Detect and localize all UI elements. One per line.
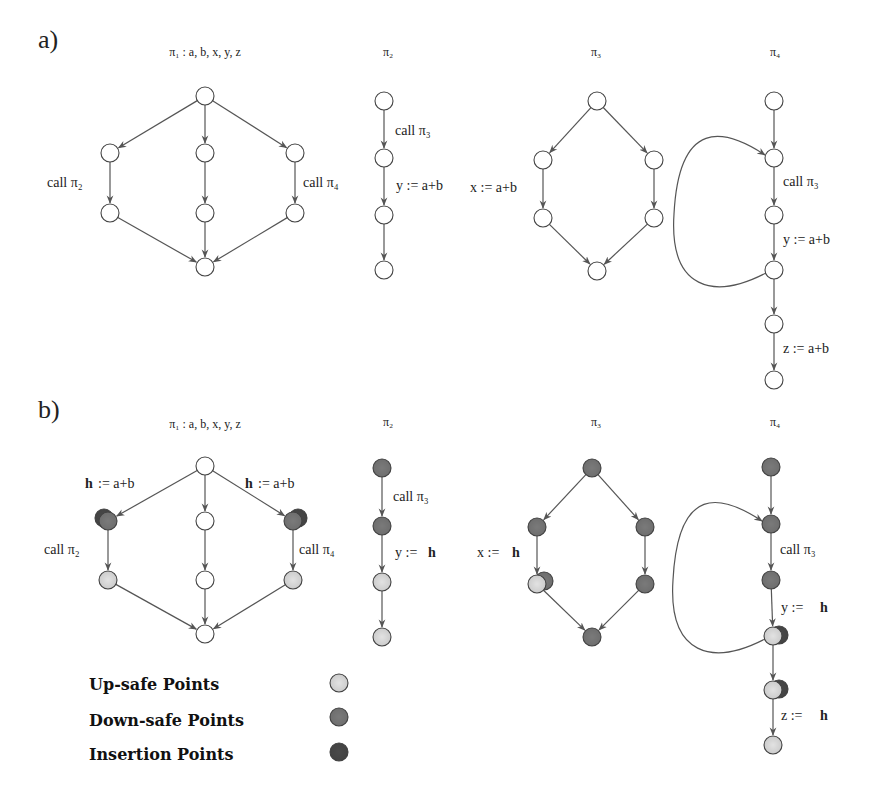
node-plain [765,315,783,333]
node-plain [645,209,663,227]
loop-back-edge [674,136,766,286]
node-plain [196,571,214,589]
node-upsafe-shade [528,575,546,593]
flow-edge [771,589,772,626]
node-plain [375,92,393,110]
node-plain [196,512,214,530]
node-plain [588,92,606,110]
procedure-title: π₄ [770,45,780,59]
legend-item-downsafe: Down-safe Points [89,708,348,730]
node-downsafe-shade [583,628,601,646]
legend-item-insertion: Insertion Points [89,743,348,764]
edge-label: call π₃ [395,123,431,138]
panel-label: b) [38,395,60,424]
flow-edge [213,101,287,148]
edge-label: x := [477,545,499,560]
node-plain [765,261,783,279]
procedure-title: π₄ [770,415,780,429]
node-upsafe-shade [764,627,782,645]
edge-label: h [245,476,253,491]
node-plain [286,144,304,162]
node-plain [196,625,214,643]
legend-dot-downsafe-icon-shade [330,708,348,726]
node-plain [375,206,393,224]
node-plain [765,371,783,389]
node-downsafe-shade [528,518,546,536]
edge-label: call π₃ [783,174,819,189]
flow-edge [599,590,639,630]
node-downsafe-shade [762,515,780,533]
node-plain [765,206,783,224]
node-plain [101,144,119,162]
flow-edge [119,101,198,148]
edge-label: call π₄ [299,542,335,557]
flow-edge [549,224,589,264]
node-downsafe-shade [373,459,391,477]
procedure-pi3: π₃x :=h [477,415,654,646]
node-plain [196,457,214,475]
edge-label: call π₂ [44,542,80,557]
edge-label: x := a+b [470,180,517,195]
node-downsafe-shade [373,517,391,535]
node-plain [196,144,214,162]
node-plain [588,262,606,280]
node-downsafe-shade [762,571,780,589]
node-downsafe-shade [284,512,302,530]
node-downsafe-shade [762,458,780,476]
legend-label: Up-safe Points [89,675,219,694]
node-downsafe-shade [99,512,117,530]
node-plain [101,204,119,222]
procedure-title: π₃ [591,415,601,429]
flow-edge [543,590,584,630]
node-upsafe-shade [284,571,302,589]
edge-label: := a+b [258,476,294,491]
procedure-title: π₁ : a, b, x, y, z [169,417,240,431]
procedure-title: π₁ : a, b, x, y, z [169,45,240,59]
node-plain [765,149,783,167]
edge-label: z := [781,708,803,723]
panel-b: b)π₁ : a, b, x, y, zh:= a+bh:= a+bcall π… [38,395,828,754]
panels: a)π₁ : a, b, x, y, zcall π₂call π₄π₂call… [38,25,830,754]
edge-label: h [512,545,520,560]
edge-label: := a+b [98,476,134,491]
node-plain [196,204,214,222]
procedure-title: π₂ [383,45,393,59]
procedure-pi4: π₄call π₃y := a+bz := a+b [674,45,830,389]
legend-item-upsafe: Up-safe Points [89,674,348,694]
edge-label: call π₂ [47,175,83,190]
edge-label: call π₃ [780,542,816,557]
flow-edge [598,475,638,520]
flow-edge [550,108,591,153]
node-upsafe-shade [373,628,391,646]
node-downsafe-shade [636,518,654,536]
node-plain [196,87,214,105]
edge-label: call π₄ [303,175,339,190]
node-downsafe-shade [583,459,601,477]
flow-edge [603,107,647,152]
edge-label: z := a+b [783,341,829,356]
node-upsafe-shade [99,571,117,589]
procedure-title: π₃ [591,45,601,59]
procedure-pi2: π₂call π₃y :=h [373,415,436,646]
legend-dot-insertion-icon-shade [330,743,348,761]
edge-label: h [85,476,93,491]
procedure-pi1: π₁ : a, b, x, y, zh:= a+bh:= a+bcall π₂c… [44,417,335,643]
node-plain [534,151,552,169]
edge-label: y := [395,545,417,560]
panel-label: a) [38,25,58,54]
edge-label: y := a+b [396,178,443,193]
legend-label: Down-safe Points [89,711,244,730]
legend: Up-safe PointsDown-safe PointsInsertion … [89,674,348,764]
procedure-pi3: π₃x := a+b [470,45,663,280]
edge-label: h [820,600,828,615]
node-plain [534,209,552,227]
flow-edge [544,475,586,520]
node-plain [765,92,783,110]
edge-label: h [820,708,828,723]
node-upsafe-shade [764,736,782,754]
flow-edge [118,217,196,262]
node-plain [645,151,663,169]
edge-label: y := a+b [783,232,830,247]
flow-edge [214,585,286,629]
flow-edge [604,224,647,264]
